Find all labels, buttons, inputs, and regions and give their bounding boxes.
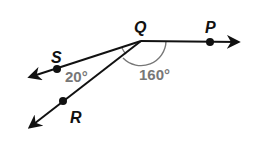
point-p <box>206 38 214 46</box>
label-r: R <box>70 109 82 126</box>
label-s: S <box>51 49 62 66</box>
ray-qp <box>141 41 238 42</box>
point-r <box>59 97 67 105</box>
label-p: P <box>205 19 216 36</box>
label-q: Q <box>134 19 147 36</box>
angle-label-20: 20° <box>65 68 88 85</box>
point-s <box>53 65 61 73</box>
angle-label-160: 160° <box>139 66 170 83</box>
angle-diagram: Q P S R 20° 160° <box>0 0 257 152</box>
